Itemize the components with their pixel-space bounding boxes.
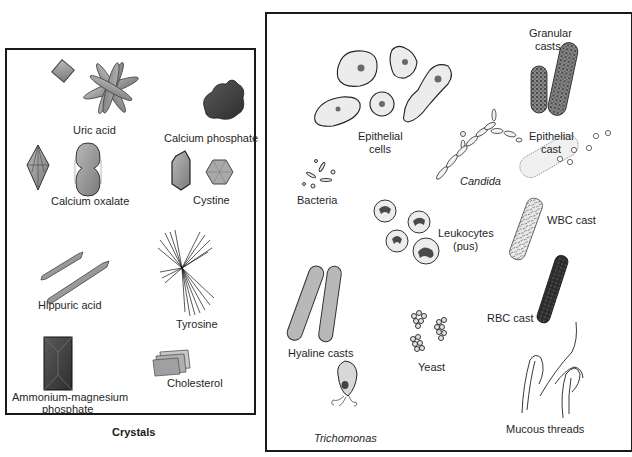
- cystine-illustration: [172, 151, 233, 190]
- label-uric-acid: Uric acid: [73, 124, 116, 137]
- label-leukocytes-line1: Leukocytes: [438, 227, 494, 240]
- tyrosine-illustration: [158, 230, 214, 316]
- label-epithelial-cast-line1: Epithelial: [529, 130, 574, 143]
- label-epithelial-cast-line2: cast: [541, 143, 561, 156]
- label-calcium-oxalate: Calcium oxalate: [51, 195, 129, 208]
- label-wbc-cast: WBC cast: [547, 214, 596, 227]
- calcium-phosphate-illustration: [204, 80, 244, 119]
- cholesterol-illustration: [153, 350, 190, 376]
- label-yeast: Yeast: [418, 361, 445, 374]
- label-epithelial-cells-line2: cells: [369, 143, 391, 156]
- label-candida: Candida: [460, 175, 501, 188]
- label-trichomonas: Trichomonas: [314, 432, 377, 445]
- label-leukocytes-line2: (pus): [453, 240, 478, 253]
- label-calcium-phosphate: Calcium phosphate: [164, 132, 258, 145]
- label-epithelial-cells-line1: Epithelial: [358, 130, 403, 143]
- hippuric-acid-illustration: [41, 252, 109, 303]
- calcium-oxalate-illustration: [27, 143, 101, 196]
- label-cholesterol: Cholesterol: [167, 377, 223, 390]
- crystals-caption: Crystals: [112, 426, 155, 438]
- label-hippuric-acid: Hippuric acid: [38, 299, 102, 312]
- label-granular-casts-line1: Granular: [529, 27, 572, 40]
- label-tyrosine: Tyrosine: [176, 318, 218, 331]
- uric-acid-illustration: [52, 60, 140, 116]
- label-bacteria: Bacteria: [297, 194, 337, 207]
- label-ammonium-magnesium-phosphate-line2: phosphate: [42, 403, 93, 416]
- label-rbc-cast: RBC cast: [487, 312, 533, 325]
- label-granular-casts-line2: casts: [535, 40, 561, 53]
- ammonium-magnesium-phosphate-illustration: [44, 337, 72, 390]
- label-mucous-threads: Mucous threads: [506, 423, 584, 436]
- label-hyaline-casts: Hyaline casts: [288, 347, 353, 360]
- label-cystine: Cystine: [193, 194, 230, 207]
